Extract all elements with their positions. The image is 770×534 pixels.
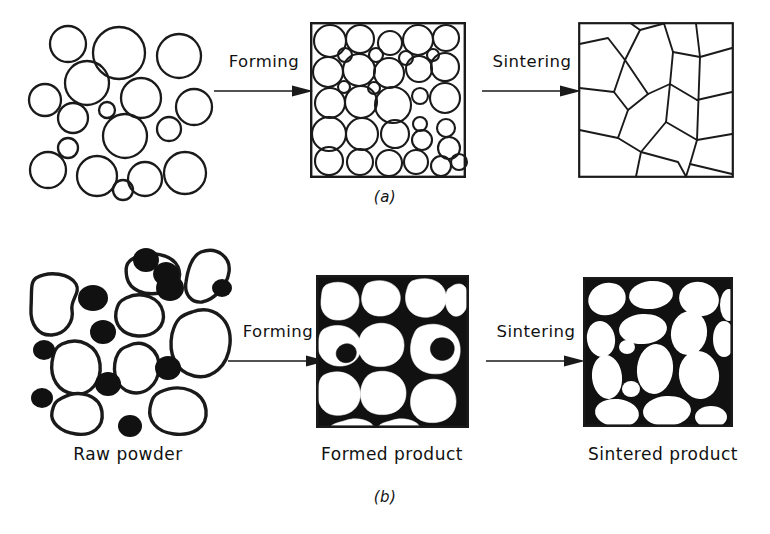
panel-a-letter: (a) (340, 188, 430, 206)
panel-b-formed-product (316, 275, 469, 428)
caption-formed-product: Formed product (302, 444, 482, 464)
panel-a-sintered-product (578, 22, 734, 178)
panel-a-forming-label: Forming (214, 52, 314, 71)
panel-b-sintered-product (583, 277, 733, 427)
panel-b-letter: (b) (340, 488, 430, 506)
panel-a-sintering-label: Sintering (482, 52, 582, 71)
panel-b-raw-powder (26, 240, 231, 435)
panel-b-forming-label: Forming (228, 322, 328, 341)
panel-a-formed-product (310, 22, 466, 178)
panel-b-sintering-arrow (486, 354, 586, 368)
caption-raw-powder: Raw powder (38, 444, 218, 464)
panel-b-forming-arrow (228, 354, 328, 368)
panel-b-sintering-label: Sintering (486, 322, 586, 341)
panel-a-raw-powder (28, 18, 218, 198)
caption-sintered-product: Sintered product (568, 444, 758, 464)
figure-powder-processing: Forming (0, 0, 770, 534)
panel-a-sintering-arrow (482, 84, 582, 98)
panel-a-forming-arrow (214, 84, 314, 98)
